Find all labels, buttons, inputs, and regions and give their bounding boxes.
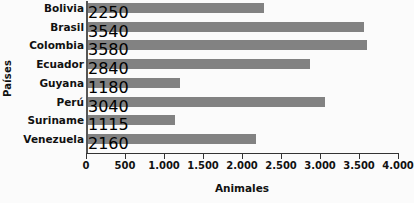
category-label: Venezuela [14,134,84,145]
x-tick-label: 1.500 [187,160,219,171]
x-tick [320,153,321,159]
bar: 3540 [88,22,364,32]
x-tick-label: 500 [115,160,136,171]
x-tick-label: 2.000 [226,160,258,171]
category-axis-labels: BoliviaBrasilColombiaEcuadorGuyanaPerúSu… [14,0,84,156]
x-tick [242,153,243,159]
x-tick-label: 0 [83,160,90,171]
bar: 3040 [88,97,325,107]
x-tick-label: 2.500 [265,160,297,171]
category-label: Perú [14,97,84,108]
x-tick [203,153,204,159]
x-tick-label: 4.000 [382,160,414,171]
bar: 1180 [88,78,180,88]
plot-area: 22503540358028401180304011152160 [86,1,398,153]
category-label: Suriname [14,115,84,126]
x-tick-label: 3.000 [304,160,336,171]
x-tick [86,153,87,159]
x-tick-label: 3.500 [343,160,375,171]
x-axis-tick-labels: 05001.0001.5002.0002.5003.0003.5004.000 [0,160,414,174]
bar: 1115 [88,115,175,125]
x-axis-title: Animales [86,182,398,194]
category-label: Colombia [14,40,84,51]
bar: 3580 [88,40,367,50]
y-axis-title-text: Países [3,59,14,96]
x-tick-label: 1.000 [148,160,180,171]
bar: 2160 [88,134,256,144]
x-tick [281,153,282,159]
bar: 2840 [88,59,310,69]
category-label: Bolivia [14,3,84,14]
x-tick [359,153,360,159]
x-tick [398,153,399,159]
x-tick [125,153,126,159]
x-axis-tick-marks [86,153,400,159]
category-label: Guyana [14,78,84,89]
bar: 2250 [88,3,264,13]
category-label: Ecuador [14,59,84,70]
bar-chart: Países BoliviaBrasilColombiaEcuadorGuyan… [0,0,414,203]
x-tick [164,153,165,159]
category-label: Brasil [14,22,84,33]
